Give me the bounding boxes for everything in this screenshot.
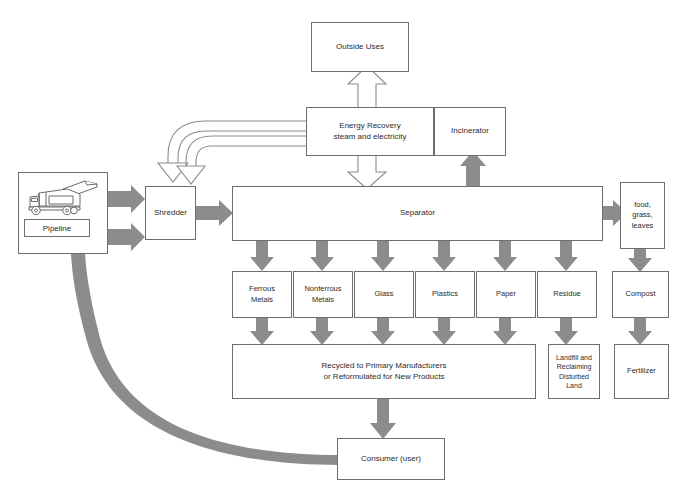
node-consumer-label: Consumer (user) xyxy=(359,454,423,465)
arrow-shredder-to-separator xyxy=(196,200,233,226)
arrow-plastics-to-recycled xyxy=(432,318,456,345)
arrow-separator-to-residue xyxy=(554,241,578,271)
node-residue-label: Residue xyxy=(551,289,583,299)
node-compost[interactable]: Compost xyxy=(612,271,669,318)
arrow-energy-to-outside-uses xyxy=(348,66,386,108)
node-pipeline-label: Pipeline xyxy=(43,224,71,233)
node-ferrous-metals[interactable]: Ferrous Metals xyxy=(232,271,292,318)
arrow-separator-to-incinerator xyxy=(460,151,486,187)
node-shredder[interactable]: Shredder xyxy=(145,186,196,240)
node-nonferrous-metals[interactable]: Nonferrous Metals xyxy=(293,271,353,318)
node-incinerator[interactable]: Incinerator xyxy=(434,107,506,156)
node-ferrous-metals-label: Ferrous Metals xyxy=(247,284,277,304)
arrow-separator-to-plastics xyxy=(432,241,456,271)
node-fertilizer-label: Fertilizer xyxy=(625,366,658,376)
arrow-recycled-to-consumer xyxy=(370,399,396,439)
node-separator[interactable]: Separator xyxy=(232,186,603,241)
node-fertilizer[interactable]: Fertilizer xyxy=(614,344,669,399)
arrow-separator-to-paper xyxy=(493,241,517,271)
node-separator-label: Separator xyxy=(398,208,437,219)
node-incinerator-label: Incinerator xyxy=(449,126,491,137)
node-outside-uses-label: Outside Uses xyxy=(334,42,386,53)
arrow-source-to-shredder-upper xyxy=(108,185,145,213)
node-plastics[interactable]: Plastics xyxy=(415,271,475,318)
arrow-energy-to-shredder-inner xyxy=(177,136,306,184)
node-waste-source[interactable]: Pipeline xyxy=(18,172,108,254)
arrow-separator-to-glass xyxy=(371,241,395,271)
node-recycled-label: Recycled to Primary Manufacturers or Ref… xyxy=(320,361,449,383)
node-outside-uses[interactable]: Outside Uses xyxy=(311,22,409,72)
node-energy-recovery[interactable]: Energy Recovery steam and electricity xyxy=(306,107,434,156)
node-residue[interactable]: Residue xyxy=(537,271,597,318)
arrow-separator-to-ferrous xyxy=(250,241,274,271)
node-organics-label: food, grass, leaves xyxy=(630,200,656,230)
node-organics[interactable]: food, grass, leaves xyxy=(620,182,665,249)
node-paper[interactable]: Paper xyxy=(476,271,536,318)
node-shredder-label: Shredder xyxy=(152,208,189,219)
arrow-nonferrous-to-recycled xyxy=(310,318,334,345)
arrow-compost-to-fertilizer xyxy=(628,318,652,345)
node-energy-recovery-label: Energy Recovery steam and electricity xyxy=(332,121,409,143)
arrow-glass-to-recycled xyxy=(371,318,395,345)
node-pipeline[interactable]: Pipeline xyxy=(24,219,90,237)
node-landfill[interactable]: Landfill and Reclaiming Disturbed Land xyxy=(548,344,600,399)
node-recycled-to-manufacturers[interactable]: Recycled to Primary Manufacturers or Ref… xyxy=(232,344,536,399)
node-glass[interactable]: Glass xyxy=(354,271,414,318)
node-consumer[interactable]: Consumer (user) xyxy=(337,438,445,480)
arrow-ferrous-to-recycled xyxy=(250,318,274,345)
arrow-paper-to-recycled xyxy=(493,318,517,345)
node-paper-label: Paper xyxy=(494,289,518,299)
flowchart-canvas: .sfill { fill: #8c8c8c; } .hstroke { fil… xyxy=(0,0,696,501)
arrow-organics-to-compost xyxy=(628,249,652,272)
arrow-source-to-shredder-lower xyxy=(108,223,145,251)
arrow-residue-to-landfill xyxy=(554,318,578,345)
node-compost-label: Compost xyxy=(623,289,657,299)
arrow-energy-to-shredder-outer xyxy=(158,121,306,182)
arrow-separator-to-nonferrous xyxy=(310,241,334,271)
node-plastics-label: Plastics xyxy=(430,289,460,299)
node-glass-label: Glass xyxy=(372,289,395,299)
node-landfill-label: Landfill and Reclaiming Disturbed Land xyxy=(554,353,594,391)
node-nonferrous-metals-label: Nonferrous Metals xyxy=(302,284,343,304)
garbage-truck-icon xyxy=(23,177,101,217)
arrow-energy-to-separator xyxy=(348,155,386,189)
